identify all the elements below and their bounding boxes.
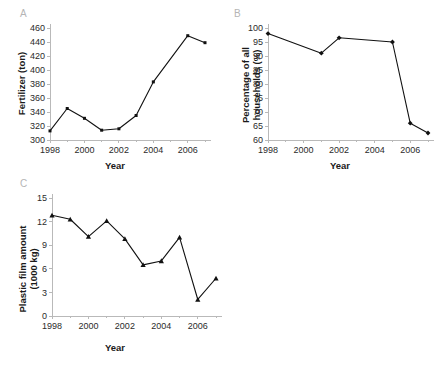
svg-text:80: 80 xyxy=(253,79,263,89)
svg-text:15: 15 xyxy=(37,193,47,203)
svg-text:65: 65 xyxy=(253,121,263,131)
panel-a-plot: 3003203403603804004204404601998200020022… xyxy=(0,18,220,178)
svg-text:85: 85 xyxy=(253,65,263,75)
svg-text:440: 440 xyxy=(30,37,45,47)
svg-text:2004: 2004 xyxy=(151,321,171,331)
panel-a-x-axis-label: Year xyxy=(55,160,175,171)
panel-b-x-axis-label: Year xyxy=(280,160,400,171)
svg-text:2000: 2000 xyxy=(294,145,314,155)
svg-text:1998: 1998 xyxy=(42,321,62,331)
svg-text:420: 420 xyxy=(30,51,45,61)
svg-text:12: 12 xyxy=(37,217,47,227)
svg-text:360: 360 xyxy=(30,93,45,103)
panel-a: A Fertilizer (ton) 300320340360380400420… xyxy=(0,0,220,180)
svg-text:60: 60 xyxy=(253,135,263,145)
svg-text:90: 90 xyxy=(253,51,263,61)
svg-text:1998: 1998 xyxy=(40,145,60,155)
svg-text:340: 340 xyxy=(30,107,45,117)
svg-text:95: 95 xyxy=(253,37,263,47)
svg-text:2006: 2006 xyxy=(400,145,420,155)
svg-text:3: 3 xyxy=(42,288,47,298)
svg-text:2002: 2002 xyxy=(329,145,349,155)
svg-text:2006: 2006 xyxy=(188,321,208,331)
svg-text:2004: 2004 xyxy=(365,145,385,155)
svg-text:2006: 2006 xyxy=(178,145,198,155)
svg-text:1998: 1998 xyxy=(258,145,278,155)
svg-text:400: 400 xyxy=(30,65,45,75)
svg-text:75: 75 xyxy=(253,93,263,103)
svg-text:70: 70 xyxy=(253,107,263,117)
svg-text:460: 460 xyxy=(30,23,45,33)
svg-text:380: 380 xyxy=(30,79,45,89)
svg-text:9: 9 xyxy=(42,240,47,250)
panel-b: B Percentage of allhouseholds (%) 606570… xyxy=(220,0,440,180)
panel-c-plot: 0369121519982000200220042006 xyxy=(0,188,230,353)
svg-text:2000: 2000 xyxy=(78,321,98,331)
svg-text:6: 6 xyxy=(42,264,47,274)
panel-b-plot: 606570758085909510019982000200220042006 xyxy=(220,18,440,178)
svg-text:100: 100 xyxy=(248,23,263,33)
svg-text:0: 0 xyxy=(42,311,47,321)
svg-text:2002: 2002 xyxy=(109,145,129,155)
svg-text:2004: 2004 xyxy=(143,145,163,155)
svg-text:2002: 2002 xyxy=(115,321,135,331)
panel-c: C Plastic film amount(1000 kg) 036912151… xyxy=(0,175,230,365)
svg-text:300: 300 xyxy=(30,135,45,145)
svg-text:320: 320 xyxy=(30,121,45,131)
panel-c-x-axis-label: Year xyxy=(55,342,175,353)
svg-text:2000: 2000 xyxy=(74,145,94,155)
